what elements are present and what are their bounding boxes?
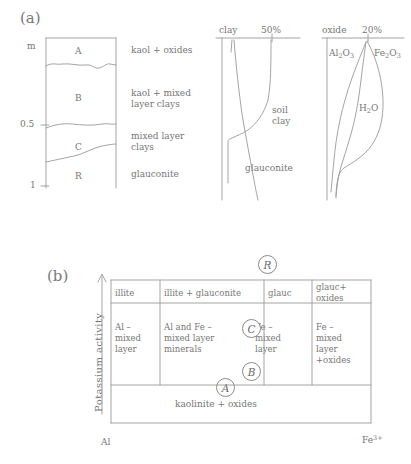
horizon-boundary-A-B [46, 64, 116, 68]
middle-curve-soil-clay [228, 40, 271, 183]
potassium-axis-arrow [98, 274, 106, 414]
horizon-boundary-B-C [46, 124, 116, 128]
horizon-boundary-C-R [46, 144, 116, 162]
depth-axis-ticks [41, 125, 49, 186]
right-curve-al2o3 [331, 42, 366, 192]
middle-plot-axes [216, 34, 300, 200]
soil-column-box [46, 38, 116, 188]
figure-root: (a) m 0.5 1 A B C R kaol + oxides kaol +… [0, 0, 411, 464]
right-curve-fe2o3 [336, 41, 383, 198]
figure-linework [0, 0, 411, 464]
stability-diagram-grid [111, 280, 371, 423]
right-plot-axes [322, 34, 404, 200]
middle-curve-reference [231, 40, 232, 52]
middle-curve-glauconite [234, 40, 258, 200]
